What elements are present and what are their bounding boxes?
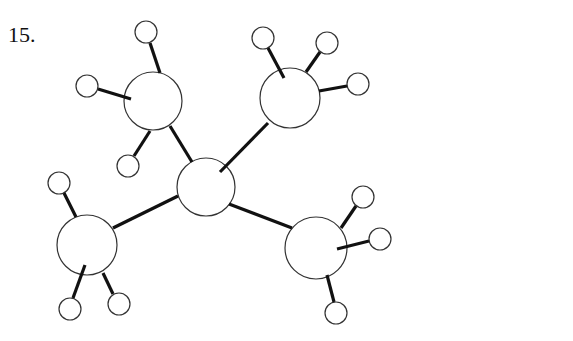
carbon-hydrogen-bond [306,52,320,72]
hydrogen-atom [325,302,347,324]
hydrogen-atom [48,172,70,194]
carbon-hydrogen-bond [150,43,160,73]
hydrogen-atom [108,293,130,315]
carbon-carbon-bond [113,196,178,228]
carbon-hydrogen-bond [134,131,150,156]
hydrogen-atom [316,32,338,54]
hydrogen-atom [369,228,391,250]
carbon-atom [260,68,320,128]
carbon-carbon-bond [220,123,268,172]
carbon-carbon-bond [170,126,192,162]
hydrogen-atom [352,186,374,208]
molecule-diagram [0,0,573,341]
hydrogen-atom [76,75,98,97]
carbon-hydrogen-bond [327,275,334,302]
carbon-hydrogen-bond [341,206,356,228]
carbon-hydrogen-bond [103,273,113,294]
hydrogen-atom [347,73,369,95]
carbon-atom [124,72,182,130]
hydrogen-atom [117,155,139,177]
carbon-carbon-bond [229,204,292,228]
carbon-atom [57,215,117,275]
carbon-hydrogen-bond [319,86,347,91]
hydrogen-atom [252,27,274,49]
hydrogen-atom [135,21,157,43]
hydrogen-atom [59,298,81,320]
carbon-hydrogen-bond [64,193,76,217]
